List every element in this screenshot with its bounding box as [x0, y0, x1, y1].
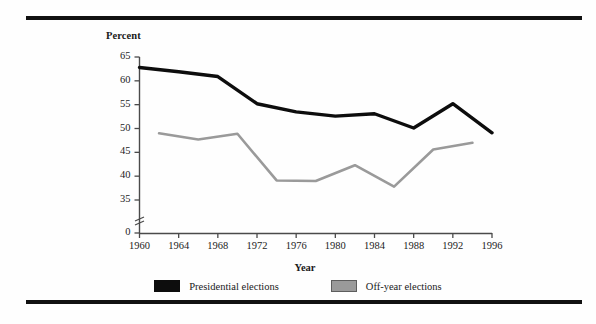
y-tick-label-0: 0 [105, 226, 131, 237]
x-axis-title: Year [0, 262, 596, 273]
y-tick-label-65: 65 [105, 50, 131, 61]
chart-legend: Presidential elections Off-year election… [0, 280, 596, 292]
y-tick-label-55: 55 [105, 98, 131, 109]
legend-item-off-year: Off-year elections [331, 280, 442, 292]
y-tick-marks [135, 57, 140, 233]
chart-plot-area: 656055504540350 196019641968197219761980… [0, 0, 596, 324]
legend-label-off-year: Off-year elections [366, 281, 442, 292]
line-off-year-elections [159, 133, 472, 186]
x-axis-title-text: Year [295, 262, 316, 273]
x-tick-label-1996: 1996 [468, 240, 516, 251]
y-tick-label-40: 40 [105, 169, 131, 180]
figure-container: Percent 656055504540350 1960196419681972… [0, 0, 596, 324]
y-tick-label-50: 50 [105, 122, 131, 133]
legend-item-presidential: Presidential elections [154, 280, 279, 292]
y-tick-label-45: 45 [105, 145, 131, 156]
chart-svg [0, 0, 596, 324]
legend-label-presidential: Presidential elections [189, 281, 279, 292]
line-presidential-elections [140, 67, 493, 132]
legend-swatch-presidential [154, 280, 180, 292]
y-tick-label-35: 35 [105, 193, 131, 204]
y-tick-label-60: 60 [105, 74, 131, 85]
legend-swatch-off-year [331, 280, 357, 292]
